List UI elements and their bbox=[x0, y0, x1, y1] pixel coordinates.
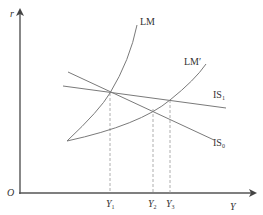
x-axis-label: Y bbox=[230, 201, 237, 212]
is0-curve bbox=[68, 72, 214, 140]
y-axis-label: r bbox=[10, 8, 14, 19]
is1-curve bbox=[63, 86, 226, 108]
is-lm-diagram: r O Y LM LM′ IS1 IS0 Y1 Y2 Y3 bbox=[0, 0, 263, 215]
tick-label-y1: Y1 bbox=[106, 198, 115, 210]
lm-prime-label: LM′ bbox=[184, 56, 201, 67]
tick-label-y3: Y3 bbox=[166, 198, 175, 210]
origin-label: O bbox=[7, 187, 14, 198]
is0-label: IS0 bbox=[213, 137, 225, 149]
is1-label: IS1 bbox=[213, 89, 225, 101]
tick-label-y2: Y2 bbox=[148, 198, 157, 210]
lm-label: LM bbox=[140, 16, 155, 27]
